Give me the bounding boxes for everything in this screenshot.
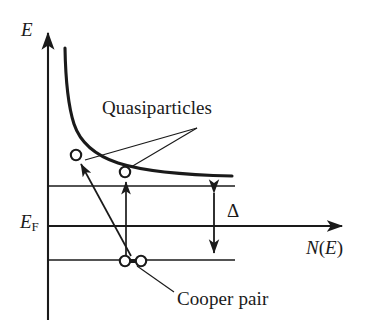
dos-axis-label: N(E) bbox=[306, 238, 343, 257]
energy-axis-label: E bbox=[21, 20, 33, 39]
cooper-electron-left-marker bbox=[120, 256, 130, 266]
quasiparticles-label: Quasiparticles bbox=[102, 98, 212, 117]
fermi-level-label-main: E bbox=[20, 211, 32, 232]
dos-axis-label-paren-close: ) bbox=[337, 237, 343, 258]
dos-axis-label-e: E bbox=[325, 237, 337, 258]
quasiparticle-left-marker bbox=[71, 150, 81, 160]
cooper-electron-right-marker bbox=[136, 256, 146, 266]
quasiparticles-leader-right bbox=[131, 128, 197, 167]
figure-canvas bbox=[0, 0, 376, 335]
cooper-pair-label: Cooper pair bbox=[177, 289, 268, 308]
dos-axis-label-n: N bbox=[306, 237, 319, 258]
cooper-pair-leader bbox=[137, 266, 174, 292]
gap-symbol-label: Δ bbox=[227, 201, 239, 220]
fermi-level-label: EF bbox=[20, 212, 39, 233]
quasiparticles-leader-left bbox=[85, 128, 197, 160]
bcs-dos-figure: E EF N(E) Δ Quasiparticles Cooper pair bbox=[0, 0, 376, 335]
fermi-level-label-subscript: F bbox=[32, 219, 39, 234]
quasiparticle-right-marker bbox=[120, 167, 130, 177]
